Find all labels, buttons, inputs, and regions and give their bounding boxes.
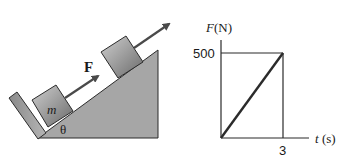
incline-diagram: F m θ bbox=[9, 24, 169, 139]
x-axis-label: t (s) bbox=[315, 131, 336, 146]
force-line bbox=[221, 53, 283, 138]
x-tick-3: 3 bbox=[279, 143, 286, 158]
force-label: F bbox=[84, 59, 93, 75]
force-time-graph: F(N) 500 3 t (s) bbox=[193, 20, 336, 158]
angle-label: θ bbox=[60, 122, 66, 137]
block-mass-label: m bbox=[47, 102, 56, 117]
force-arrow bbox=[65, 76, 98, 98]
y-tick-500: 500 bbox=[193, 46, 215, 61]
upper-force-arrow bbox=[134, 24, 169, 48]
y-axis-label: F(N) bbox=[205, 20, 232, 35]
figure-canvas: F m θ F(N) 500 3 t (s) bbox=[0, 0, 354, 165]
